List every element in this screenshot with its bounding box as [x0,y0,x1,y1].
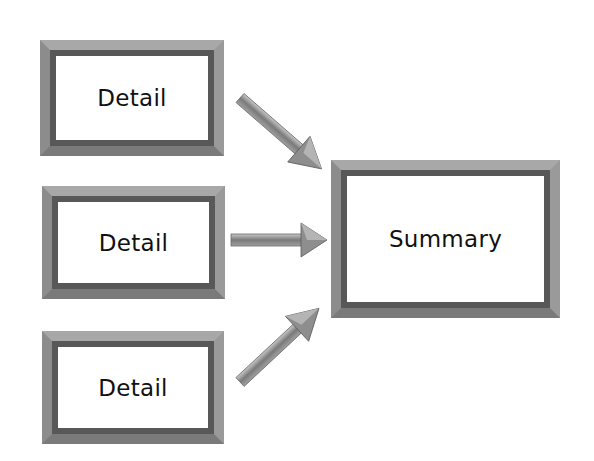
arrow-down-right-icon [229,85,333,182]
arrow-right-icon [231,223,327,257]
arrows-layer [0,0,594,461]
arrow-up-right-icon [228,296,330,395]
